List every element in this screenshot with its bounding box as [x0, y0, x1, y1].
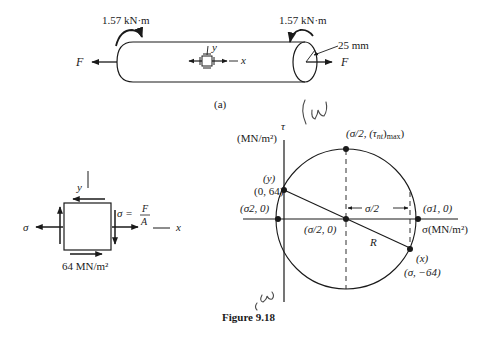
- top-point-label: (σ/2, (τnt)max): [346, 127, 404, 141]
- sigma-fraction-denominator: A: [140, 216, 148, 227]
- sigma-left-label: σ: [23, 221, 29, 233]
- y-point-name: (y): [263, 172, 276, 185]
- half-sigma-dim-label: σ/2: [365, 202, 379, 214]
- stress-element-diagram: y σ σ = F A x 64 MN/m²: [23, 171, 181, 272]
- radius-leader: [314, 46, 338, 55]
- radius-label: 25 mm: [338, 39, 369, 51]
- sigma2-label: (σ2, 0): [240, 202, 270, 215]
- sigma-eq-label: σ =: [117, 207, 133, 219]
- shear-stress-label: 64 MN/m²: [62, 260, 109, 272]
- point-top: [343, 146, 349, 152]
- sigma-fraction-numerator: F: [141, 203, 149, 214]
- x-point-name: (x): [416, 252, 429, 265]
- x-point-coords: (σ, −64): [404, 266, 441, 279]
- point-x: [407, 246, 413, 252]
- mohr-circle-diagram: τ (MN/m²) σ(MN/m²) σ/2 R (σ/2, (τnt)max)…: [237, 100, 468, 310]
- force-right-label: F: [340, 55, 349, 69]
- figure-canvas: 25 mm F F 1.57 kN·m 1.57 kN·m y x (a): [0, 0, 496, 337]
- element-x-axis-label: x: [175, 221, 181, 233]
- point-sigma2: [275, 216, 281, 222]
- radius-r-label: R: [369, 236, 377, 248]
- center-label: (σ/2, 0): [304, 223, 337, 236]
- force-left-label: F: [75, 55, 84, 69]
- tau-axis-label: τ: [281, 120, 286, 132]
- radius-line: [306, 50, 315, 62]
- element-y-axis-label: y: [76, 181, 82, 193]
- y-point-coords: (0, 64): [254, 185, 284, 198]
- element-x-label: x: [240, 54, 246, 66]
- sigma-axis-label: σ(MN/m²): [422, 223, 468, 236]
- point-center: [343, 216, 349, 222]
- torque-right-arrow: [290, 30, 313, 42]
- handwritten-cw-bottom: [256, 292, 274, 310]
- element-y-label: y: [211, 41, 217, 53]
- stress-element-square: [64, 203, 111, 250]
- tau-axis-units: (MN/m²): [237, 132, 277, 145]
- sigma1-label: (σ1, 0): [423, 202, 453, 215]
- shaft-diagram: 25 mm F F 1.57 kN·m 1.57 kN·m y x (a): [75, 14, 369, 111]
- figure-caption: Figure 9.18: [222, 311, 275, 323]
- torque-left-arrow: [116, 30, 142, 46]
- handwritten-cw-top: [303, 100, 327, 124]
- part-a-label: (a): [214, 98, 227, 111]
- torque-right-label: 1.57 kN·m: [279, 14, 327, 26]
- point-sigma1: [415, 216, 421, 222]
- torque-left-label: 1.57 kN·m: [102, 14, 150, 26]
